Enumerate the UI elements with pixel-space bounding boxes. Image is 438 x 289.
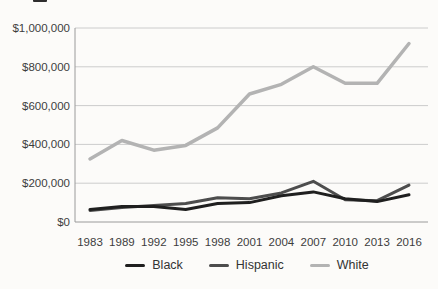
x-tick-label-2016: 2016 <box>385 235 433 249</box>
legend-swatch-white <box>310 264 330 267</box>
series-line-black <box>90 192 409 210</box>
wealth-line-chart-figure: $1,000,000$800,000$600,000$400,000$200,0… <box>0 0 438 289</box>
series-line-white <box>90 44 409 159</box>
y-tick-label: $400,000 <box>0 137 70 151</box>
y-tick-label: $600,000 <box>0 99 70 113</box>
y-tick-label: $0 <box>0 215 70 229</box>
y-tick-label: $800,000 <box>0 60 70 74</box>
chart-legend: BlackHispanicWhite <box>56 258 438 273</box>
legend-swatch-black <box>125 264 145 267</box>
legend-item-hispanic: Hispanic <box>209 258 284 273</box>
legend-label-white: White <box>337 258 369 273</box>
legend-item-white: White <box>310 258 369 273</box>
legend-label-hispanic: Hispanic <box>236 258 284 273</box>
y-tick-label: $200,000 <box>0 176 70 190</box>
legend-swatch-hispanic <box>209 264 229 267</box>
legend-item-black: Black <box>125 258 183 273</box>
legend-label-black: Black <box>152 258 183 273</box>
y-tick-label: $1,000,000 <box>0 21 70 35</box>
